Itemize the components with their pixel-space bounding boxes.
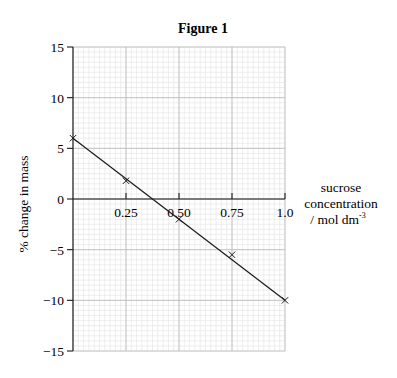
chart: Figure 1 151050−5−10−15 0.250.500.751.0 … (0, 0, 397, 378)
y-axis-ticks: 151050−5−10−15 (43, 40, 73, 359)
y-tick-label: 10 (51, 91, 65, 106)
y-tick-label: −10 (43, 293, 64, 308)
x-tick-label: 1.0 (277, 205, 294, 220)
y-tick-label: 0 (57, 192, 64, 207)
y-axis-label: % change in mass (16, 155, 31, 252)
svg-text:sucrose: sucrose (321, 180, 362, 195)
y-tick-label: 5 (57, 141, 64, 156)
x-axis-ticks: 0.250.500.751.0 (114, 193, 294, 220)
y-tick-label: 15 (51, 40, 65, 55)
x-axis-label: sucroseconcentration/ mol dm-3 (304, 180, 378, 227)
x-tick-label: 0.75 (220, 205, 244, 220)
svg-text:/ mol dm-3: / mol dm-3 (310, 211, 365, 227)
y-tick-label: −5 (50, 243, 65, 258)
chart-title: Figure 1 (178, 21, 228, 36)
y-tick-label: −15 (43, 344, 64, 359)
svg-text:concentration: concentration (304, 196, 378, 211)
x-tick-label: 0.25 (114, 205, 138, 220)
